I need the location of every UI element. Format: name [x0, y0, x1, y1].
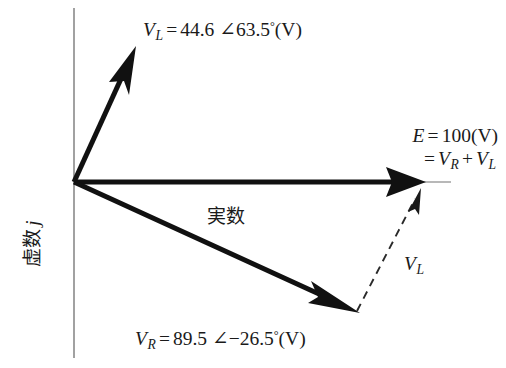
- label-vl-angle: 63.5: [236, 19, 270, 40]
- vector-vl-shaft: [74, 70, 125, 182]
- imaginary-axis-text: 虚数: [21, 229, 43, 267]
- angle-icon: ∠: [219, 18, 236, 40]
- label-e-line2-equals: =: [424, 148, 435, 169]
- label-e-vl-symbol: V: [476, 148, 488, 169]
- imaginary-unit-symbol: j: [22, 221, 43, 226]
- phasor-diagram-figure: VL=44.6 ∠63.5°(V) E=100(V) =VR+VL 実数 VL …: [0, 0, 506, 368]
- label-e-vr-symbol: V: [438, 148, 450, 169]
- label-vl-equals: =: [166, 19, 177, 40]
- label-e-vl-subscript: L: [488, 157, 496, 172]
- label-vl-subscript: L: [155, 28, 163, 43]
- label-vl-top: VL=44.6 ∠63.5°(V): [143, 18, 302, 44]
- label-e-right: E=100(V) =VR+VL: [358, 124, 498, 173]
- vector-vr-shaft: [74, 182, 330, 299]
- label-vl-dashed-subscript: L: [416, 262, 424, 277]
- label-vl-dashed: VL: [404, 252, 424, 278]
- label-vr-equals: =: [159, 328, 170, 349]
- label-vr-angle: −26.5: [229, 328, 274, 349]
- label-vr-symbol: V: [135, 328, 147, 349]
- label-e-symbol: E: [413, 125, 425, 146]
- label-vl-symbol: V: [143, 19, 155, 40]
- real-axis-label: 実数: [207, 205, 245, 227]
- vector-vl-arrowhead: [109, 46, 136, 95]
- label-e-line1: E=100(V): [413, 125, 498, 146]
- vector-vl-dashed: [357, 188, 421, 311]
- vector-vl: [74, 46, 136, 182]
- label-e-magnitude: 100: [442, 125, 471, 146]
- label-vr-unit: (V): [279, 328, 306, 349]
- label-e-equals: =: [428, 125, 439, 146]
- vector-vr: [74, 182, 360, 313]
- imaginary-axis-label: 虚数j: [21, 189, 44, 299]
- angle-icon: ∠: [212, 327, 229, 349]
- label-e-vr-subscript: R: [450, 157, 458, 172]
- label-vr-bottom: VR=89.5 ∠−26.5°(V): [135, 327, 306, 353]
- label-vr-magnitude: 89.5: [173, 328, 207, 349]
- label-vr-subscript: R: [147, 337, 155, 352]
- vector-canvas: [0, 0, 506, 368]
- label-vl-dashed-symbol: V: [404, 253, 416, 274]
- label-e-plus: +: [462, 148, 473, 169]
- vector-vl-dashed-arrowhead: [408, 188, 421, 215]
- label-vl-unit: (V): [275, 19, 302, 40]
- label-e-unit: (V): [471, 125, 498, 146]
- vector-vr-arrowhead: [308, 281, 360, 313]
- label-vl-magnitude: 44.6: [180, 19, 214, 40]
- label-e-line2: =VR+VL: [358, 147, 498, 173]
